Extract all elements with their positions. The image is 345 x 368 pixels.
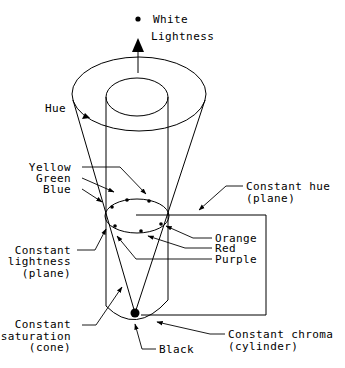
lightness-arrowhead-icon — [132, 38, 144, 52]
constant-chroma-label: Constant chroma — [228, 329, 333, 340]
black-label: Black — [159, 344, 194, 355]
cone-top-ellipse — [72, 57, 206, 131]
constant-lightness-leader — [77, 229, 106, 250]
black-point — [131, 309, 140, 318]
constant-hue-leader — [199, 186, 243, 210]
constant-lightness-sub-label: lightness — [8, 256, 71, 267]
black-leader — [135, 324, 156, 349]
orange-leader — [166, 226, 212, 238]
constant-saturation-label: Constant — [15, 319, 71, 330]
constant-chroma-sub-label: (cylinder) — [228, 341, 298, 352]
white-point — [135, 16, 140, 21]
cone-left-side — [73, 100, 135, 313]
white-label: White — [153, 14, 188, 25]
constant-hue-label: Constant hue — [246, 181, 330, 192]
constant-hue-sub-label: (plane) — [246, 193, 295, 204]
constant-saturation-cone-label: (cone) — [29, 342, 71, 353]
hue-arrow-icon — [82, 113, 90, 119]
constant-saturation-leader — [82, 287, 122, 325]
cone-right-side — [135, 100, 205, 313]
lightness-label: Lightness — [151, 31, 214, 42]
cylinder-top-ellipse — [106, 78, 168, 116]
purple-label: Purple — [215, 254, 257, 265]
constant-lightness-plane-label: (plane) — [22, 268, 71, 279]
hue-label: Hue — [45, 103, 66, 114]
purple-leader — [117, 236, 212, 259]
constant-chroma-leader — [157, 322, 225, 334]
hue-ellipse — [105, 199, 169, 233]
yellow-leader — [82, 167, 146, 194]
green-leader — [82, 178, 114, 192]
blue-label: Blue — [43, 184, 71, 195]
